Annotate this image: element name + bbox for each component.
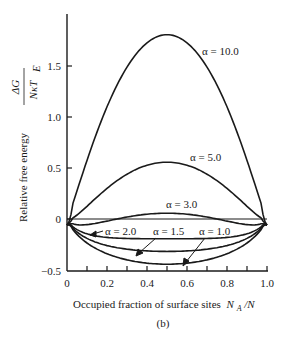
- svg-text:ΔG: ΔG: [9, 80, 21, 95]
- y-tick-1.5: 1.5: [47, 60, 61, 72]
- x-tick-labels: 0 0.2 0.4 0.6 0.8 1.0: [64, 277, 274, 289]
- panel-label: (b): [157, 317, 170, 330]
- y-axis-label: Relative free energy ΔG NκT E: [9, 65, 42, 222]
- svg-text:E: E: [30, 65, 42, 73]
- label-alpha-5: α = 5.0: [190, 151, 222, 163]
- label-alpha-3: α = 3.0: [166, 198, 198, 210]
- x-tick-0.4: 0.4: [140, 277, 154, 289]
- y-tick-0: 0: [56, 213, 62, 225]
- x-tick-0.8: 0.8: [220, 277, 234, 289]
- x-axis-label: Occupied fraction of surface sites N A /…: [73, 298, 255, 313]
- y-ticks: [67, 66, 72, 219]
- arrow-alpha-2: [90, 231, 96, 237]
- y-tick-0.5: 0.5: [47, 162, 61, 174]
- y-tick-minus-0.5: −0.5: [41, 265, 61, 277]
- x-tick-0.2: 0.2: [100, 277, 114, 289]
- label-alpha-1.5: α = 1.5: [153, 225, 185, 237]
- label-alpha-2: α = 2.0: [105, 225, 137, 237]
- x-tick-0.6: 0.6: [180, 277, 194, 289]
- x-ticks: [87, 266, 267, 271]
- label-alpha-10: α = 10.0: [202, 45, 239, 57]
- svg-text:NκT: NκT: [27, 80, 39, 101]
- x-tick-1.0: 1.0: [260, 277, 274, 289]
- y-tick-1.0: 1.0: [47, 111, 61, 123]
- x-tick-0: 0: [64, 277, 70, 289]
- y-tick-labels: 1.5 1.0 0.5 0 −0.5: [41, 60, 61, 277]
- curve-alpha-5: [67, 162, 267, 225]
- svg-text:Occupied fraction of surface s: Occupied fraction of surface sites N A /…: [73, 298, 255, 313]
- svg-text:Relative free energy: Relative free energy: [17, 133, 29, 222]
- label-alpha-1: α = 1.0: [199, 225, 231, 237]
- free-energy-chart: 1.5 1.0 0.5 0 −0.5 0 0.2 0.4 0.6 0.8 1.0…: [0, 0, 287, 345]
